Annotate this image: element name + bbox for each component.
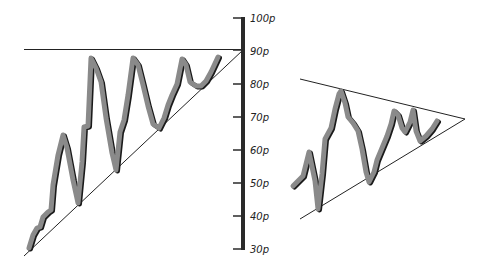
y-label-100: 100p	[250, 13, 275, 24]
y-axis-line	[241, 17, 245, 250]
right-chart	[293, 79, 465, 219]
y-label-80: 80p	[250, 79, 269, 90]
y-label-60: 60p	[250, 145, 269, 156]
y-label-90: 90p	[250, 46, 269, 57]
y-axis: 100p 90p 80p 70p 60p 50p 40p 30p	[233, 13, 275, 255]
y-label-50: 50p	[250, 178, 269, 189]
y-label-30: 30p	[250, 244, 269, 255]
y-label-40: 40p	[250, 211, 269, 222]
upper-trendline	[300, 79, 465, 119]
price-line	[29, 57, 218, 248]
y-label-70: 70p	[250, 112, 269, 123]
chart-canvas: 100p 90p 80p 70p 60p 50p 40p 30p	[0, 0, 489, 274]
left-chart	[24, 50, 243, 257]
